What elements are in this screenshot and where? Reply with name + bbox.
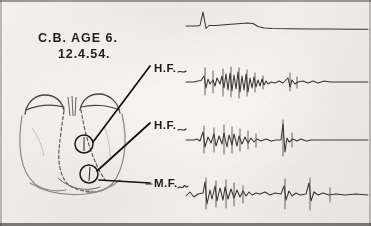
label-tail-mf: [178, 186, 188, 188]
trace-hf-lower-spikes: [204, 120, 292, 156]
phonocardiogram-figure: C.B. AGE 6. 12.4.54. H.F. H.F. M.F.: [0, 0, 371, 226]
page-title: C.B. AGE 6.: [38, 31, 118, 45]
trace-ecg: [186, 12, 368, 29]
trace-label-hf-upper: H.F.: [154, 62, 176, 74]
label-tail-hf-lower: [178, 129, 186, 130]
trace-mf: [186, 182, 368, 204]
label-tail-hf-upper: [178, 71, 186, 72]
trace-hf-lower: [186, 124, 368, 152]
trace-label-hf-lower: H.F.: [154, 119, 176, 131]
trace-label-mf: M.F.: [154, 177, 178, 189]
recording-date: 12.4.54.: [58, 47, 110, 61]
